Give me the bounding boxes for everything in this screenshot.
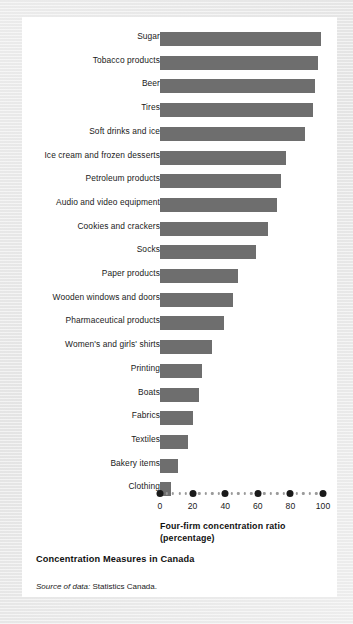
bar-category-label: Tires: [28, 100, 160, 114]
figure-title: Concentration Measures in Canada: [36, 554, 194, 564]
x-axis-tick-label: 80: [286, 501, 296, 511]
x-axis-minor-dot: [165, 492, 167, 494]
bar-row: Tobacco products: [22, 56, 337, 70]
x-axis-title-line1: Four-firm concentration ratio: [160, 521, 335, 533]
x-axis-minor-dot: [250, 492, 252, 494]
bar: [160, 316, 224, 330]
bar: [160, 435, 188, 449]
bar: [160, 151, 286, 165]
x-axis-tick-label: 100: [316, 501, 330, 511]
bar-row: Bakery items: [22, 459, 337, 473]
bar-row: Socks: [22, 245, 337, 259]
bar-row: Sugar: [22, 32, 337, 46]
figure-source: Source of data: Statistics Canada.: [36, 582, 157, 591]
bar-category-label: Beer: [28, 76, 160, 90]
x-axis-title-line2: (percentage): [160, 533, 335, 545]
bar-row: Women's and girls' shirts: [22, 340, 337, 354]
bar-row: Pharmaceutical products: [22, 316, 337, 330]
bar-category-label: Wooden windows and doors: [28, 290, 160, 304]
bar-row: Wooden windows and doors: [22, 293, 337, 307]
bar-category-label: Fabrics: [28, 408, 160, 422]
bar-row: Beer: [22, 79, 337, 93]
bar: [160, 32, 321, 46]
bar: [160, 56, 318, 70]
bar-category-label: Bakery items: [28, 456, 160, 470]
bar-category-label: Boats: [28, 385, 160, 399]
x-axis-tick-dot: [189, 490, 196, 497]
bar-row: Fabrics: [22, 411, 337, 425]
x-axis-minor-dot: [270, 492, 272, 494]
bar: [160, 222, 268, 236]
x-axis-minor-dot: [231, 492, 233, 494]
x-axis-line: 020406080100: [160, 490, 323, 497]
bar-row: Soft drinks and ice: [22, 127, 337, 141]
x-axis-minor-dot: [276, 492, 278, 494]
bar-chart: SugarTobacco productsBeerTiresSoft drink…: [22, 17, 337, 495]
bar-category-label: Paper products: [28, 266, 160, 280]
x-axis-minor-dot: [204, 492, 206, 494]
x-axis-minor-dot: [283, 492, 285, 494]
x-axis-tick-label: 20: [188, 501, 198, 511]
bar-row: Audio and video equipment: [22, 198, 337, 212]
bar-category-label: Tobacco products: [28, 53, 160, 67]
bar: [160, 103, 313, 117]
bar: [160, 340, 212, 354]
bar: [160, 364, 202, 378]
source-lead: Source of data:: [36, 582, 90, 591]
bar: [160, 127, 305, 141]
bar-category-label: Printing: [28, 361, 160, 375]
bar-category-label: Women's and girls' shirts: [28, 337, 160, 351]
x-axis-minor-dot: [198, 492, 200, 494]
x-axis-minor-dot: [315, 492, 317, 494]
bar: [160, 79, 315, 93]
bar-row: Paper products: [22, 269, 337, 283]
bar: [160, 245, 256, 259]
x-axis-minor-dot: [237, 492, 239, 494]
bar-category-label: Petroleum products: [28, 171, 160, 185]
bar-row: Printing: [22, 364, 337, 378]
bar-row: Petroleum products: [22, 174, 337, 188]
x-axis-minor-dot: [302, 492, 304, 494]
bar: [160, 411, 193, 425]
bar-row: Textiles: [22, 435, 337, 449]
x-axis-tick-label: 60: [253, 501, 263, 511]
bar: [160, 293, 233, 307]
x-axis-tick-dot: [287, 490, 294, 497]
bar: [160, 269, 238, 283]
x-axis-tick-dot: [157, 490, 164, 497]
x-axis-minor-dot: [178, 492, 180, 494]
bar-row: Tires: [22, 103, 337, 117]
bar-category-label: Pharmaceutical products: [28, 313, 160, 327]
bar: [160, 459, 178, 473]
x-axis-tick-label: 40: [220, 501, 230, 511]
bar-row: Boats: [22, 388, 337, 402]
x-axis-minor-dot: [263, 492, 265, 494]
bar-row: Ice cream and frozen desserts: [22, 151, 337, 165]
x-axis-tick-dot: [254, 490, 261, 497]
x-axis-minor-dot: [217, 492, 219, 494]
x-axis-tick-label: 0: [158, 501, 163, 511]
figure-panel: SugarTobacco productsBeerTiresSoft drink…: [22, 17, 337, 597]
source-body: Statistics Canada.: [90, 582, 157, 591]
x-axis-minor-dot: [185, 492, 187, 494]
bar-category-label: Socks: [28, 242, 160, 256]
bar-category-label: Cookies and crackers: [28, 219, 160, 233]
bar-category-label: Ice cream and frozen desserts: [28, 148, 160, 162]
x-axis-minor-dot: [244, 492, 246, 494]
bar-category-label: Soft drinks and ice: [28, 124, 160, 138]
x-axis-minor-dot: [309, 492, 311, 494]
x-axis: 020406080100: [22, 487, 337, 521]
x-axis-tick-dot: [320, 490, 327, 497]
bar-category-label: Textiles: [28, 432, 160, 446]
bar-row: Cookies and crackers: [22, 222, 337, 236]
bar: [160, 174, 281, 188]
x-axis-tick-dot: [222, 490, 229, 497]
x-axis-minor-dot: [296, 492, 298, 494]
bar-category-label: Audio and video equipment: [28, 195, 160, 209]
bar: [160, 198, 277, 212]
x-axis-minor-dot: [172, 492, 174, 494]
x-axis-minor-dot: [211, 492, 213, 494]
bar-category-label: Sugar: [28, 29, 160, 43]
x-axis-title: Four-firm concentration ratio (percentag…: [160, 521, 335, 544]
bar: [160, 388, 199, 402]
